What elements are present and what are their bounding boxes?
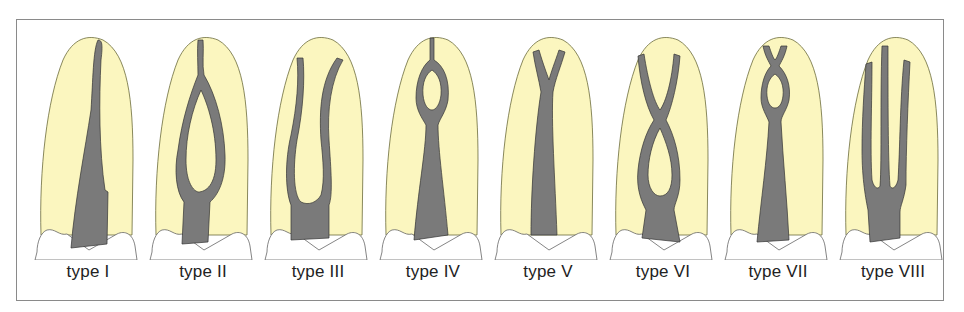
- type-label-vi: type VI: [608, 262, 718, 282]
- type-label-i: type I: [33, 262, 143, 282]
- tooth-type-viii: type VIII: [838, 20, 948, 302]
- tooth-type-iv: type IV: [378, 20, 488, 302]
- root-canal-type-vii-illustration: [723, 20, 833, 260]
- root-canal-type-v-illustration: [493, 20, 603, 260]
- tooth-type-i: type I: [33, 20, 143, 302]
- root-canal-type-iii-illustration: [263, 20, 373, 260]
- tooth-type-vii: type VII: [723, 20, 833, 302]
- tooth-type-vi: type VI: [608, 20, 718, 302]
- root-canal-type-i-illustration: [33, 20, 143, 260]
- root-canal-type-vi-illustration: [608, 20, 718, 260]
- root-canal-type-iv-illustration: [378, 20, 488, 260]
- type-label-iv: type IV: [378, 262, 488, 282]
- type-label-viii: type VIII: [838, 262, 948, 282]
- type-label-iii: type III: [263, 262, 373, 282]
- tooth-type-v: type V: [493, 20, 603, 302]
- type-label-vii: type VII: [723, 262, 833, 282]
- type-label-v: type V: [493, 262, 603, 282]
- root-canal-type-viii-illustration: [838, 20, 948, 260]
- tooth-type-ii: type II: [148, 20, 258, 302]
- root-canal-type-ii-illustration: [148, 20, 258, 260]
- type-label-ii: type II: [148, 262, 258, 282]
- tooth-type-iii: type III: [263, 20, 373, 302]
- figure-frame: type I type II type III type IV: [16, 19, 944, 301]
